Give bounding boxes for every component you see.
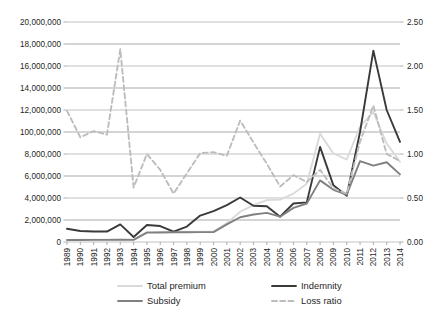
x-axis-tick-label: 2006 [289,248,298,267]
y-axis-right-tick-label: 2.50 [407,18,423,27]
legend-label: Indemnity [301,280,342,291]
y-axis-left-tick-label: 4,000,000 [25,194,62,203]
y-axis-right-tick-label: 1.00 [407,150,423,159]
grid-layer [67,22,400,242]
x-axis-tick-label: 2007 [303,248,312,267]
x-axis-tick-label: 2001 [223,248,232,267]
x-axis-tick-label: 1989 [63,248,72,267]
x-axis-tick-label: 2010 [343,248,352,267]
y-axis-left-tick-label: 12,000,000 [20,106,61,115]
y-axis-right: 0.000.501.001.502.002.50 [400,18,423,247]
y-axis-left-tick-label: 6,000,000 [25,172,62,181]
x-axis-tick-label: 1996 [156,248,165,267]
x-axis-tick-label: 2013 [383,248,392,267]
x-axis-tick-label: 1993 [116,248,125,267]
series-layer [67,49,400,240]
x-axis-tick-label: 2005 [276,248,285,267]
x-axis-tick-label: 2009 [329,248,338,267]
y-axis-right-tick-label: 0.50 [407,194,423,203]
x-axis-tick-label: 2002 [236,248,245,267]
x-axis: 1989199019911992199319941995199619971998… [63,242,405,266]
series-indemnity [67,51,400,237]
chart-legend: Total premiumIndemnitySubsidyLoss ratio [118,280,342,306]
x-axis-tick-label: 2008 [316,248,325,267]
x-axis-tick-label: 1998 [183,248,192,267]
x-axis-tick-label: 1997 [170,248,179,267]
y-axis-left-tick-label: 0 [56,238,61,247]
chart-container: 02,000,0004,000,0006,000,0008,000,000100… [0,0,448,325]
x-axis-tick-label: 1991 [90,248,99,267]
x-axis-tick-label: 2004 [263,248,272,267]
x-axis-tick-label: 2000 [210,248,219,267]
y-axis-left-tick-label: 100,00,000 [20,128,61,137]
y-axis-left-tick-label: 20,000,000 [20,18,61,27]
y-axis-left-tick-label: 18,000,000 [20,40,61,49]
y-axis-left-tick-label: 8,000,000 [25,150,62,159]
x-axis-tick-label: 1999 [196,248,205,267]
x-axis-tick-label: 2014 [396,248,405,267]
legend-label: Loss ratio [301,295,342,306]
x-axis-tick-label: 2012 [369,248,378,267]
y-axis-right-tick-label: 2.00 [407,62,423,71]
legend-label: Subsidy [147,295,181,306]
legend-label: Total premium [147,280,206,291]
series-loss-ratio [67,49,400,193]
x-axis-tick-label: 1994 [130,248,139,267]
line-chart: 02,000,0004,000,0006,000,0008,000,000100… [0,0,448,325]
y-axis-right-tick-label: 0.00 [407,238,423,247]
y-axis-left-tick-label: 14,000,000 [20,84,61,93]
x-axis-tick-label: 1992 [103,248,112,267]
y-axis-left-tick-label: 16,000,000 [20,62,61,71]
x-axis-tick-label: 1990 [76,248,85,267]
y-axis-left-tick-label: 2,000,000 [25,216,62,225]
y-axis-right-tick-label: 1.50 [407,106,423,115]
y-axis-left: 02,000,0004,000,0006,000,0008,000,000100… [20,18,67,247]
x-axis-tick-label: 1995 [143,248,152,267]
x-axis-tick-label: 2003 [249,248,258,267]
x-axis-tick-label: 2011 [356,248,365,266]
